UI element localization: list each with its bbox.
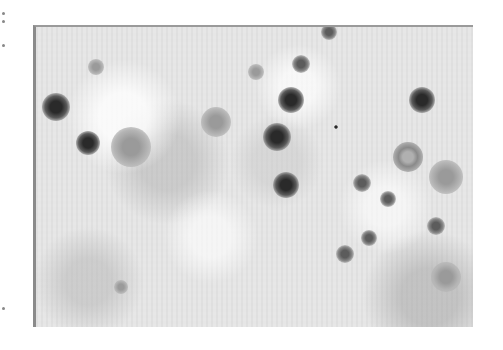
particle: [42, 93, 70, 121]
particle: [427, 217, 445, 235]
particle: [114, 280, 128, 294]
particle: [409, 87, 435, 113]
particle: [361, 230, 377, 246]
particle: [292, 55, 310, 73]
edge-mark: [2, 307, 5, 310]
particle: [353, 174, 371, 192]
particle: [111, 127, 151, 167]
particle: [201, 107, 231, 137]
particle: [334, 125, 338, 129]
particle: [248, 64, 264, 80]
particle: [431, 262, 461, 292]
particle: [429, 160, 463, 194]
particle: [393, 142, 423, 172]
edge-mark: [2, 12, 5, 15]
particle: [76, 131, 100, 155]
particle: [88, 59, 104, 75]
particle: [278, 87, 304, 113]
particle: [380, 191, 396, 207]
particle: [273, 172, 299, 198]
particle: [336, 245, 354, 263]
edge-mark: [2, 20, 5, 23]
particle: [263, 123, 291, 151]
micrograph-image: [33, 25, 473, 327]
edge-mark: [2, 44, 5, 47]
